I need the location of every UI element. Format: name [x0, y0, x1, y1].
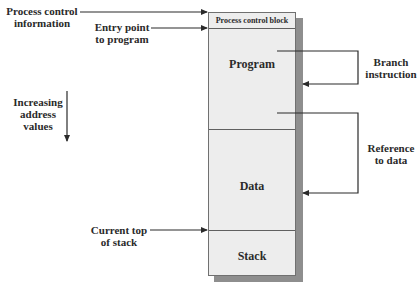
label-increasing-address-values: Increasing address values — [12, 96, 64, 132]
label-process-control-information: Process control information — [4, 5, 80, 29]
arrow-branch-instruction — [277, 51, 358, 84]
label-line: Entry point — [93, 21, 151, 33]
label-line: Increasing — [12, 96, 64, 108]
label-line: information — [4, 17, 80, 29]
label-line: values — [12, 120, 64, 132]
connector-lines — [0, 0, 420, 290]
label-line: address — [12, 108, 64, 120]
label-line: Branch — [363, 56, 419, 68]
label-line: Reference — [363, 142, 419, 154]
label-line: Current top — [90, 224, 148, 236]
label-current-top-of-stack: Current top of stack — [90, 224, 148, 248]
label-line: to data — [363, 154, 419, 166]
label-reference-to-data: Reference to data — [363, 142, 419, 166]
label-line: of stack — [90, 236, 148, 248]
arrow-reference-to-data — [277, 113, 358, 193]
label-branch-instruction: Branch instruction — [363, 56, 419, 80]
label-line: to program — [93, 33, 151, 45]
label-line: instruction — [363, 68, 419, 80]
label-line: Process control — [4, 5, 80, 17]
label-entry-point: Entry point to program — [93, 21, 151, 45]
